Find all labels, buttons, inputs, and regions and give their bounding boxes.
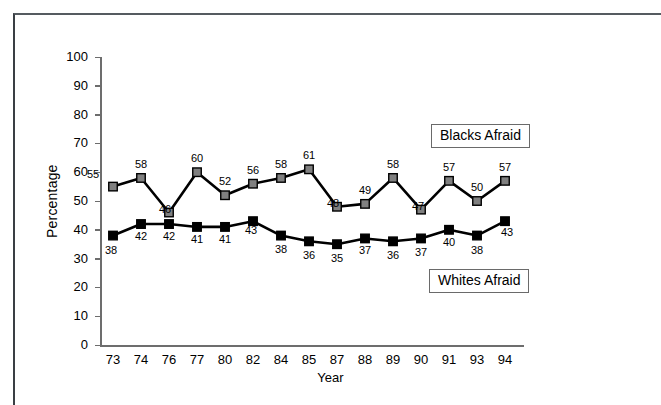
data-point-marker bbox=[277, 231, 286, 240]
data-point-marker bbox=[277, 174, 286, 183]
point-value-label: 36 bbox=[381, 250, 405, 261]
point-value-label: 52 bbox=[213, 176, 237, 187]
point-value-label: 38 bbox=[269, 244, 293, 255]
data-point-marker bbox=[305, 237, 314, 246]
data-point-marker bbox=[221, 223, 230, 232]
data-point-marker bbox=[249, 179, 258, 188]
point-value-label: 46 bbox=[153, 204, 177, 215]
data-point-marker bbox=[361, 234, 370, 243]
point-value-label: 43 bbox=[495, 227, 519, 238]
point-value-label: 49 bbox=[353, 185, 377, 196]
y-axis-title: Percentage bbox=[44, 164, 60, 238]
data-point-marker bbox=[109, 231, 118, 240]
legend-blacks-afraid: Blacks Afraid bbox=[431, 124, 530, 148]
point-value-label: 50 bbox=[465, 182, 489, 193]
point-value-label: 58 bbox=[129, 159, 153, 170]
data-point-marker bbox=[501, 217, 510, 226]
data-point-marker bbox=[473, 197, 482, 206]
x-axis-title: Year bbox=[0, 370, 661, 385]
data-point-marker bbox=[501, 177, 510, 186]
data-point-marker bbox=[165, 220, 174, 229]
point-value-label: 56 bbox=[241, 165, 265, 176]
point-value-label: 42 bbox=[129, 231, 153, 242]
legend-whites-afraid: Whites Afraid bbox=[429, 269, 529, 293]
point-value-label: 57 bbox=[493, 162, 517, 173]
data-point-marker bbox=[137, 174, 146, 183]
point-value-label: 55 bbox=[81, 169, 105, 180]
point-value-label: 40 bbox=[437, 237, 461, 248]
data-point-marker bbox=[137, 220, 146, 229]
point-value-label: 38 bbox=[465, 245, 489, 256]
data-point-marker bbox=[193, 168, 202, 177]
point-value-label: 57 bbox=[437, 162, 461, 173]
point-value-label: 48 bbox=[321, 198, 345, 209]
point-value-label: 36 bbox=[297, 250, 321, 261]
data-point-marker bbox=[445, 226, 454, 235]
data-point-marker bbox=[389, 174, 398, 183]
point-value-label: 43 bbox=[239, 225, 263, 236]
point-value-label: 37 bbox=[353, 245, 377, 256]
data-point-marker bbox=[361, 200, 370, 209]
point-value-label: 61 bbox=[297, 150, 321, 161]
point-value-label: 37 bbox=[409, 247, 433, 258]
data-point-marker bbox=[417, 234, 426, 243]
point-value-label: 42 bbox=[157, 231, 181, 242]
data-point-marker bbox=[473, 231, 482, 240]
point-value-label: 58 bbox=[381, 159, 405, 170]
point-value-label: 60 bbox=[185, 153, 209, 164]
point-value-label: 41 bbox=[185, 234, 209, 245]
data-point-marker bbox=[389, 237, 398, 246]
data-point-marker bbox=[221, 191, 230, 200]
point-value-label: 38 bbox=[99, 245, 123, 256]
point-value-label: 47 bbox=[406, 201, 430, 212]
point-value-label: 41 bbox=[213, 234, 237, 245]
data-point-marker bbox=[193, 223, 202, 232]
point-value-label: 58 bbox=[269, 159, 293, 170]
point-value-label: 35 bbox=[325, 253, 349, 264]
data-point-marker bbox=[109, 182, 118, 191]
data-point-marker bbox=[305, 165, 314, 174]
data-point-marker bbox=[333, 240, 342, 249]
data-point-marker bbox=[445, 177, 454, 186]
